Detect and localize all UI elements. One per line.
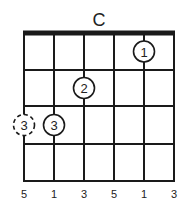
- optional-finger-marker: 3: [14, 115, 35, 136]
- finger-marker: 3: [44, 115, 65, 136]
- finger-number: 1: [140, 45, 147, 60]
- finger-marker: 2: [74, 78, 95, 99]
- finger-marker: 1: [134, 41, 155, 62]
- interval-label: 5: [21, 188, 27, 200]
- chord-diagram: C 1233 513513: [0, 0, 186, 206]
- interval-label: 3: [171, 188, 177, 200]
- finger-number: 3: [20, 118, 27, 133]
- interval-label: 5: [111, 188, 117, 200]
- interval-label: 3: [81, 188, 87, 200]
- interval-label: 1: [51, 188, 57, 200]
- interval-labels: 513513: [21, 188, 177, 200]
- finger-number: 3: [50, 118, 57, 133]
- chord-name: C: [93, 10, 106, 30]
- interval-label: 1: [141, 188, 147, 200]
- finger-number: 2: [80, 81, 87, 96]
